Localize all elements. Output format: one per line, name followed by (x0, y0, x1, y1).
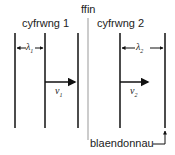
medium-2-label: cyfrwng 2 (97, 17, 144, 29)
velocity-1-label: v1 (55, 85, 62, 98)
wavelength-2-label: λ2 (136, 41, 143, 54)
boundary-label: ffin (81, 3, 95, 15)
wavelength-1-label: λ1 (26, 41, 33, 54)
wavefront-label: blaendonnau (90, 137, 154, 149)
wavefront-pointer (153, 131, 165, 144)
medium-1-label: cyfrwng 1 (22, 17, 69, 29)
velocity-2-label: v2 (130, 85, 137, 98)
